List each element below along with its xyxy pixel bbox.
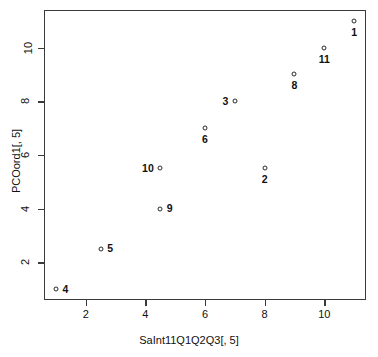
y-axis-tick [38,155,44,156]
x-axis-tick-label: 8 [262,309,268,320]
data-point-label: 4 [62,284,68,295]
x-axis-tick [265,300,266,306]
open-circle-marker-icon [262,166,267,171]
x-axis-tick [145,300,146,306]
open-circle-marker-icon [232,99,237,104]
data-point: 8 [292,72,297,77]
open-circle-marker-icon [322,45,327,50]
y-axis-tick [38,262,44,263]
x-axis-tick [205,300,206,306]
data-point-label: 1 [351,26,357,37]
x-axis-title: SaInt11Q1Q2Q3[, 5] [0,334,378,346]
data-point-label: 10 [142,163,154,174]
data-point: 6 [203,126,208,131]
open-circle-marker-icon [53,287,58,292]
open-circle-marker-icon [292,72,297,77]
x-axis-tick-label: 6 [202,309,208,320]
data-point: 1 [352,18,357,23]
open-circle-marker-icon [158,206,163,211]
x-axis-tick-label: 2 [83,309,89,320]
data-point-label: 9 [167,203,173,214]
data-point-label: 11 [319,53,330,64]
y-axis-tick [38,209,44,210]
data-point: 4 [53,287,58,292]
data-point: 5 [98,246,103,251]
y-axis-title: PCOord1[, 5] [10,101,22,221]
y-axis-tick [38,48,44,49]
x-axis-tick-label: 10 [318,309,330,320]
data-points-layer: 111836210954 [44,10,366,300]
data-point: 11 [322,45,327,50]
open-circle-marker-icon [203,126,208,131]
data-point: 2 [262,166,267,171]
data-point-label: 2 [262,174,268,185]
data-point-label: 5 [107,244,113,255]
data-point: 10 [158,166,163,171]
data-point-label: 3 [222,96,228,107]
data-point: 3 [232,99,237,104]
open-circle-marker-icon [98,246,103,251]
open-circle-marker-icon [158,166,163,171]
y-axis-tick-label: 10 [23,41,34,53]
scatter-plot-figure: 111836210954 246810246810 SaInt11Q1Q2Q3[… [0,0,378,357]
data-point: 9 [158,206,163,211]
x-axis-tick [324,300,325,306]
y-axis-tick-label: 2 [20,259,31,265]
y-axis-tick [38,101,44,102]
x-axis-tick-label: 4 [142,309,148,320]
x-axis-tick [86,300,87,306]
data-point-label: 8 [292,80,298,91]
open-circle-marker-icon [352,18,357,23]
data-point-label: 6 [202,134,208,145]
